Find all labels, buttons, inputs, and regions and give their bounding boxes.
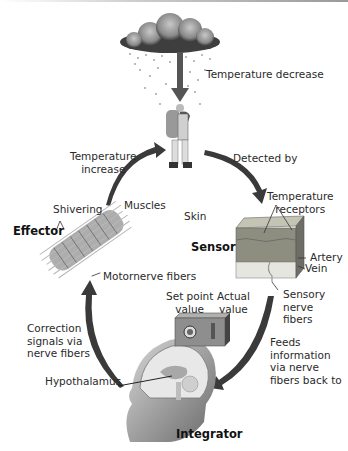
actual-value-label: Actual value [217,290,250,315]
sensory-nerve-fibers-label: Sensory nerve fibers [283,288,325,326]
arrow-down-icon [171,52,189,102]
set-point-label: Set point value [166,290,213,315]
vein-label: Vein [305,262,327,275]
stimulus-label: Temperature decrease [206,68,324,81]
correction-signals-label: Correction signals via nerve fibers [27,322,90,360]
rain-cloud-icon [120,13,220,105]
hypothalamus-label: Hypothalamus [45,375,121,388]
set-point-box-icon [175,313,230,346]
integrator-title: Integrator [176,428,243,441]
muscles-label: Muscles [124,199,166,212]
hiker-icon [166,104,192,168]
detected-by-label: Detected by [233,152,297,165]
shivering-label: Shivering [53,203,102,216]
feeds-information-label: Feeds information via nerve fibers back … [270,336,342,386]
response-label: Temperature increase [70,150,137,175]
motornerve-fibers-label: Motornerve fibers [103,270,196,283]
temperature-receptors-label: Temperature receptors [267,190,334,215]
skin-label: Skin [184,210,206,223]
sensor-title: Sensor [191,241,236,254]
skin-block-icon [236,205,306,290]
effector-title: Effector [13,225,64,238]
